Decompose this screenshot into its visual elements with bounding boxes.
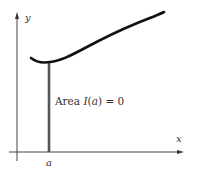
y-axis-arrow-icon	[15, 12, 19, 19]
y-axis-label: y	[25, 13, 31, 23]
area-function-diagram	[0, 0, 197, 175]
area-prefix: Area	[55, 95, 83, 107]
area-label: Area I(a) = 0	[55, 96, 124, 107]
y-axis	[15, 12, 19, 161]
x-axis	[9, 150, 184, 154]
function-curve	[31, 12, 164, 62]
x-axis-label: x	[176, 134, 182, 144]
a-tick-label: a	[46, 158, 52, 168]
area-equals: = 0	[102, 95, 124, 107]
x-axis-arrow-icon	[177, 150, 184, 154]
